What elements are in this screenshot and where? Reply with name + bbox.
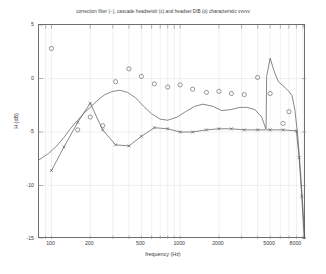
marker-circle [191, 87, 195, 91]
marker-circle [229, 91, 233, 95]
figure-root: correction filter (−), cascade headsetsl… [0, 0, 326, 274]
x-axis-label: frequency (Hz) [0, 251, 326, 257]
marker-circle [152, 82, 156, 86]
y-tick-label: 0 [14, 75, 34, 81]
x-tick-label: 2000 [205, 240, 231, 246]
marker-circle [76, 128, 80, 132]
x-tick-label: 1000 [166, 240, 192, 246]
x-tick-label: 5000 [256, 240, 282, 246]
x-tick-label: 8000 [282, 240, 308, 246]
plot-svg [39, 25, 306, 239]
marker-circle [281, 121, 285, 125]
x-tick-label: 100 [37, 240, 63, 246]
marker-circle [101, 123, 105, 127]
marker-circle [242, 92, 246, 96]
x-tick-label: 200 [76, 240, 102, 246]
y-axis-label: H (dB) [13, 91, 19, 151]
y-tick-label: -10 [14, 182, 34, 188]
plot-area [38, 24, 305, 238]
x-tick-label: 500 [127, 240, 153, 246]
series-line-correction-filter [39, 58, 305, 239]
y-tick-label: 5 [14, 21, 34, 27]
y-tick-label: -15 [14, 235, 34, 241]
marker-circle [114, 80, 118, 84]
chart-title: correction filter (−), cascade headsetsl… [0, 9, 326, 14]
marker-circle [204, 90, 208, 94]
